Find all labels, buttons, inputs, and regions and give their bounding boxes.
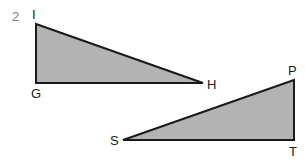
vertex-label-h: H [207, 78, 216, 91]
triangle-diagram [0, 0, 306, 160]
vertex-label-p: P [288, 64, 297, 77]
vertex-label-s: S [110, 134, 119, 147]
triangle-ghi [36, 24, 203, 83]
vertex-label-i: I [32, 8, 36, 21]
vertex-label-t: T [289, 145, 297, 158]
vertex-label-g: G [31, 87, 41, 100]
